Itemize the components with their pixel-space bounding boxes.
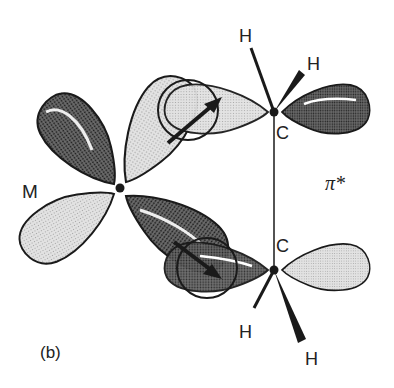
pi-lobe-bottom-right: [282, 244, 370, 290]
hydrogen-label-top-right: H: [307, 54, 320, 74]
hydrogen-label-top-left: H: [239, 26, 252, 46]
carbon-atom-top: [270, 108, 279, 117]
carbon-bottom-label: C: [276, 236, 289, 256]
metal-label: M: [22, 181, 38, 202]
alkene: [251, 48, 306, 343]
pi-star-label: π*: [325, 172, 345, 194]
pi-lobe-bottom-left: [165, 242, 268, 291]
pi-lobe-top-left: [165, 84, 268, 133]
pi-lobe-top-right: [282, 84, 370, 133]
panel-label: (b): [40, 343, 61, 362]
carbon-top-label: C: [276, 123, 289, 143]
hydrogen-label-bottom-left: H: [239, 322, 252, 342]
carbon-atom-bottom: [270, 266, 279, 275]
metal-atom: [116, 184, 125, 193]
hydrogen-label-bottom-right: H: [305, 349, 318, 369]
metal-alkene-orbital-diagram: M C C H H H H π* (b): [0, 0, 394, 388]
